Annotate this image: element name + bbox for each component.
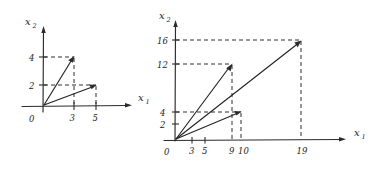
left-y-axis-title: x 2 [25, 16, 37, 30]
right-ytick-label-4: 4 [159, 108, 165, 118]
right-x-axis-title-sub: 1 [362, 133, 366, 141]
right-origin-label: 0 [164, 147, 170, 157]
right-xtick-label-9: 9 [229, 146, 235, 156]
right-x-axis-arrowhead [339, 137, 346, 142]
left-origin-label: 0 [29, 114, 35, 124]
right-ytick-label-12: 12 [157, 60, 168, 70]
diagram-canvas: 3 5 2 4 0 x 2 x 1 [0, 0, 382, 171]
right-ytick-label-2: 2 [159, 120, 165, 130]
left-plot-x-axis [22, 103, 132, 108]
right-xtick-label-10: 10 [238, 146, 249, 156]
right-plot-x-axis [164, 137, 346, 142]
left-y-axis-title-text: x [25, 16, 31, 27]
right-vector-d [176, 41, 302, 140]
right-y-axis-title-text: x [159, 10, 165, 21]
left-xtick-label-3: 3 [70, 113, 75, 123]
left-y-axis-arrowhead [41, 26, 46, 33]
left-vector-b [44, 85, 97, 105]
vector-diagram-figure: 3 5 2 4 0 x 2 x 1 [0, 0, 382, 171]
left-plot-y-axis [41, 26, 46, 112]
right-x-axis-line [164, 140, 341, 141]
right-plot-y-axis [173, 20, 178, 141]
left-vector-b-line [44, 87, 94, 106]
right-xtick-label-5: 5 [202, 146, 207, 156]
right-y-axis-arrowhead [173, 20, 178, 27]
right-vector-d-line [176, 44, 298, 140]
left-y-axis-line [43, 30, 44, 112]
right-y-axis-title: x 2 [159, 10, 171, 24]
left-ytick-label-4: 4 [28, 53, 34, 63]
left-x-axis-arrowhead [125, 103, 132, 108]
left-y-axis-title-sub: 2 [32, 22, 37, 30]
right-y-axis-title-sub: 2 [166, 16, 171, 24]
right-vector-e-arrowhead [234, 111, 241, 116]
left-x-axis-title-sub: 1 [146, 98, 150, 106]
right-x-axis-title-text: x [354, 127, 360, 138]
left-vector-a [44, 56, 75, 105]
left-vector-b-arrowhead [89, 85, 96, 90]
left-vector-a-line [44, 60, 72, 106]
left-plot: 3 5 2 4 0 x 2 x 1 [22, 16, 150, 124]
left-ytick-label-2: 2 [28, 81, 34, 91]
right-xtick-label-19: 19 [297, 146, 308, 156]
right-plot: 3 5 9 10 19 2 4 12 16 0 x 2 x 1 [157, 10, 366, 157]
left-x-axis-title: x 1 [138, 92, 150, 106]
left-xtick-label-5: 5 [93, 113, 98, 123]
right-xtick-label-3: 3 [189, 146, 194, 156]
right-ytick-label-16: 16 [157, 36, 168, 46]
right-x-axis-title: x 1 [354, 127, 366, 141]
left-x-axis-title-text: x [138, 92, 144, 103]
